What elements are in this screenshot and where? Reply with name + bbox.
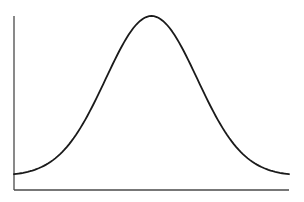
- bell-curve-line: [14, 16, 289, 174]
- bell-curve-chart: [0, 0, 304, 202]
